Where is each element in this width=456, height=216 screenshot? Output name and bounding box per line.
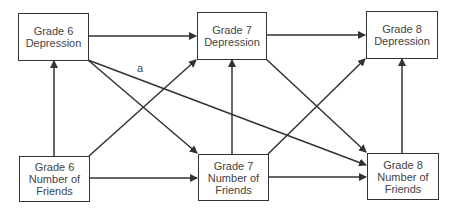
- node-line: Depression: [374, 35, 430, 47]
- node-line: Friends: [385, 183, 422, 195]
- node-line: Grade 7: [214, 160, 254, 172]
- node-line: Grade 7: [212, 24, 252, 36]
- edge-g7fr-g8dep: [268, 59, 365, 154]
- node-grade7-depression: Grade 7 Depression: [197, 12, 267, 60]
- node-line: Number of: [377, 171, 428, 183]
- node-line: Grade 8: [383, 159, 423, 171]
- node-grade6-friends: Grade 6 Number of Friends: [19, 156, 90, 202]
- node-line: Number of: [208, 172, 259, 184]
- node-grade6-depression: Grade 6 Depression: [18, 13, 89, 61]
- node-line: Depression: [204, 36, 260, 48]
- node-line: Depression: [26, 37, 82, 49]
- node-line: Friends: [36, 185, 73, 197]
- edge-label-a: a: [137, 62, 143, 74]
- node-line: Grade 6: [34, 25, 74, 37]
- node-grade7-friends: Grade 7 Number of Friends: [198, 154, 269, 201]
- node-line: Friends: [215, 184, 252, 196]
- node-line: Number of: [29, 173, 80, 185]
- node-line: Grade 6: [35, 161, 75, 173]
- node-grade8-friends: Grade 8 Number of Friends: [367, 153, 439, 200]
- node-grade8-depression: Grade 8 Depression: [366, 11, 438, 59]
- node-line: Grade 8: [382, 23, 422, 35]
